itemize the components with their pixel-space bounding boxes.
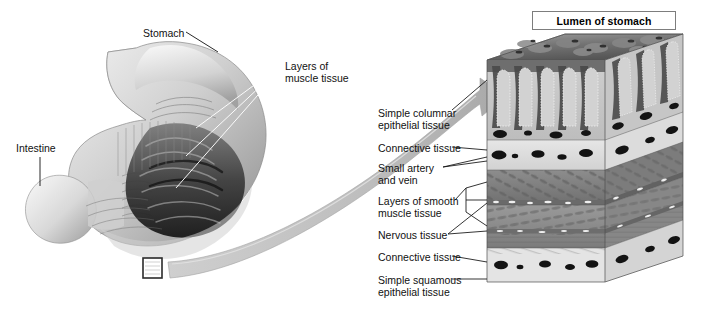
label-layers-of-smooth-muscle-tissue: Layers of smooth muscle tissue — [378, 196, 459, 219]
figure-canvas: Lumen of stomach Stomach Intestine Layer… — [0, 0, 710, 310]
label-nervous-tissue: Nervous tissue — [378, 230, 447, 242]
leader-muscle-layers — [176, 66, 280, 188]
leader-smooth-muscle — [455, 182, 487, 200]
tissue-block — [443, 34, 683, 282]
diagram-svg — [0, 0, 710, 310]
label-layers-of-muscle-tissue: Layers of muscle tissue — [285, 61, 349, 84]
label-intestine: Intestine — [16, 143, 56, 155]
layer-connective-lower — [487, 220, 683, 282]
layer-epithelium — [487, 60, 605, 140]
label-connective-tissue-upper: Connective tissue — [378, 143, 461, 155]
label-simple-squamous-epithelial-tissue: Simple squamous epithelial tissue — [378, 275, 461, 298]
label-small-artery-and-vein: Small artery and vein — [378, 163, 434, 186]
label-connective-tissue-lower: Connective tissue — [378, 252, 461, 264]
label-simple-columnar-epithelial-tissue: Simple columnar epithelial tissue — [378, 108, 456, 131]
leader-simple-columnar — [452, 80, 487, 110]
lumen-of-stomach-label: Lumen of stomach — [557, 15, 652, 27]
lumen-of-stomach-title-box: Lumen of stomach — [532, 11, 676, 30]
leader-stomach — [186, 32, 218, 52]
layer-muscle-inner — [487, 177, 683, 248]
leader-artery-vein — [443, 157, 487, 167]
callout-square — [143, 258, 162, 278]
nerve-plexus-upper — [487, 172, 683, 205]
leader-nervous — [448, 231, 487, 234]
label-stomach: Stomach — [143, 28, 184, 40]
nerve-plexus-lower — [487, 201, 683, 234]
layer-connective-upper — [487, 112, 683, 170]
block-top-face — [487, 34, 683, 60]
layer-muscle-outer — [487, 142, 683, 205]
